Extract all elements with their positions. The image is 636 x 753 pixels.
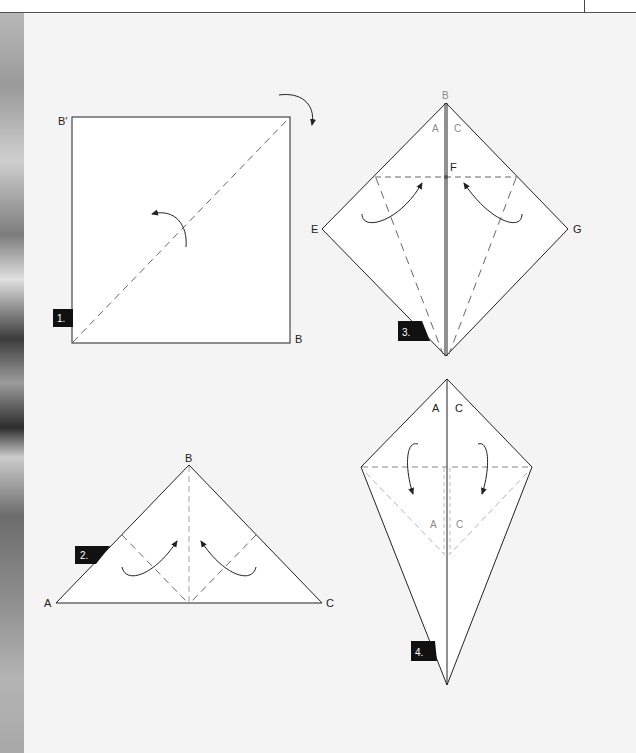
origami-instructions: B′ B 1. B A C 2. B A C F E G	[0, 0, 636, 753]
step-2-diagram: B A C 2.	[44, 452, 334, 609]
step-number: 1.	[57, 313, 65, 324]
step-number: 3.	[402, 327, 410, 338]
label-a: A	[432, 402, 440, 414]
label-e: E	[311, 223, 318, 235]
step-number: 4.	[415, 647, 423, 658]
label-c: C	[455, 402, 463, 414]
label-b: B	[442, 90, 449, 101]
step-number: 2.	[80, 550, 88, 561]
label-b-prime: B′	[58, 115, 67, 127]
label-b: B	[295, 333, 302, 345]
label-c-hidden: C	[456, 519, 463, 530]
label-a-hidden: A	[430, 519, 437, 530]
paper-triangle	[56, 465, 322, 603]
label-a: A	[44, 597, 52, 609]
label-b: B	[185, 452, 192, 464]
label-f: F	[450, 161, 457, 173]
label-c: C	[326, 597, 334, 609]
label-c: C	[454, 123, 461, 134]
step-4-diagram: A C A C 4.	[361, 379, 532, 685]
step-1-diagram: B′ B 1.	[53, 95, 313, 345]
step-3-diagram: B A C F E G 3.	[311, 90, 582, 356]
label-a: A	[432, 123, 439, 134]
label-g: G	[573, 223, 582, 235]
